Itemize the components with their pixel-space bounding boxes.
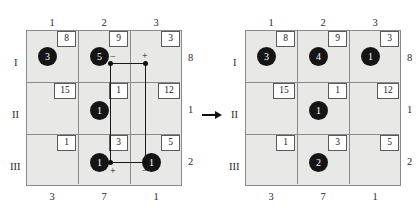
- left-cost-r3c3: 5: [161, 135, 180, 151]
- left-cost-r2c3: 12: [158, 83, 180, 99]
- left-alloc-r2c2: 1: [90, 101, 109, 120]
- right-grid-hline-2: [246, 134, 399, 136]
- right-supply-I: 8: [407, 53, 412, 64]
- left-cost-r1c1: 8: [57, 31, 76, 47]
- right-cost-r3c2: 3: [328, 135, 347, 151]
- left-alloc-r1c1: 3: [38, 47, 57, 66]
- right-cost-r1c1: 8: [276, 31, 295, 47]
- right-grid-vline-2: [349, 31, 351, 184]
- left-alloc-r1c2: 5: [90, 47, 109, 66]
- right-cost-r2c3: 12: [377, 83, 399, 99]
- left-col-header-3: 3: [130, 18, 182, 29]
- right-cost-r2c1: 15: [273, 83, 295, 99]
- right-alloc-r1c2: 4: [309, 47, 328, 66]
- transportation-tableau-figure: 1 2 3 I II III 8 9 3 15 1 12 1 3 5 3 5 1…: [0, 0, 419, 218]
- left-cost-r1c2: 9: [109, 31, 128, 47]
- loop-segment-right: [145, 63, 146, 163]
- right-cost-r3c3: 5: [380, 135, 399, 151]
- left-demand-3: 1: [130, 192, 182, 203]
- right-col-header-3: 3: [349, 18, 401, 29]
- left-demand-2: 7: [78, 192, 130, 203]
- right-grid-vline-1: [297, 31, 299, 184]
- left-alloc-r3c2: 1: [90, 153, 109, 172]
- right-supply-III: 2: [407, 157, 412, 168]
- left-cost-r3c1: 1: [57, 135, 76, 151]
- right-alloc-r3c2: 2: [309, 153, 328, 172]
- left-cost-r1c3: 3: [161, 31, 180, 47]
- loop-segment-left: [110, 63, 111, 163]
- loop-segment-bottom: [110, 162, 146, 163]
- right-alloc-r1c1: 3: [257, 47, 276, 66]
- right-col-header-2: 2: [297, 18, 349, 29]
- left-supply-I: 8: [188, 53, 193, 64]
- left-supply-III: 2: [188, 157, 193, 168]
- left-supply-II: 1: [188, 105, 193, 116]
- right-cost-r1c3: 3: [380, 31, 399, 47]
- loop-sign-r3c2: +: [110, 166, 116, 176]
- right-alloc-r1c3: 1: [361, 47, 380, 66]
- left-col-header-1: 1: [26, 18, 78, 29]
- right-cost-r3c1: 1: [276, 135, 295, 151]
- left-grid-vline-1: [78, 31, 80, 184]
- right-col-header-1: 1: [245, 18, 297, 29]
- loop-node-r1c3: [143, 61, 148, 66]
- right-demand-3: 1: [349, 192, 401, 203]
- left-row-header-I: I: [14, 58, 18, 69]
- right-cost-r1c2: 9: [328, 31, 347, 47]
- right-demand-1: 3: [245, 192, 297, 203]
- left-col-header-2: 2: [78, 18, 130, 29]
- right-tableau: 1 2 3 I II III 8 9 3 15 1 12 1 3 5 3 4 1…: [219, 0, 419, 218]
- loop-sign-r1c3: +: [142, 51, 148, 61]
- left-row-header-II: II: [12, 110, 19, 121]
- right-row-header-I: I: [233, 58, 237, 69]
- loop-segment-top: [110, 63, 146, 64]
- right-row-header-II: II: [231, 110, 238, 121]
- right-row-header-III: III: [229, 162, 240, 173]
- left-cost-r2c1: 15: [54, 83, 76, 99]
- left-demand-1: 3: [26, 192, 78, 203]
- right-alloc-r2c2: 1: [309, 101, 328, 120]
- left-grid-hline-2: [27, 134, 180, 136]
- loop-sign-r1c2: −: [110, 52, 116, 62]
- left-cost-r3c2: 3: [109, 135, 128, 151]
- right-supply-II: 1: [407, 105, 412, 116]
- left-row-header-III: III: [10, 162, 21, 173]
- loop-sign-r3c3: −: [142, 166, 148, 176]
- left-cost-r2c2: 1: [109, 83, 128, 99]
- left-tableau: 1 2 3 I II III 8 9 3 15 1 12 1 3 5 3 5 1…: [0, 0, 200, 218]
- right-demand-2: 7: [297, 192, 349, 203]
- right-cost-r2c2: 1: [328, 83, 347, 99]
